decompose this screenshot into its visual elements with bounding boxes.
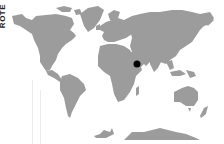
south-america	[60, 74, 86, 118]
australia	[174, 86, 198, 106]
world-map	[0, 0, 224, 144]
location-marker	[134, 61, 141, 68]
north-america	[12, 14, 76, 71]
antarctica	[94, 128, 114, 138]
